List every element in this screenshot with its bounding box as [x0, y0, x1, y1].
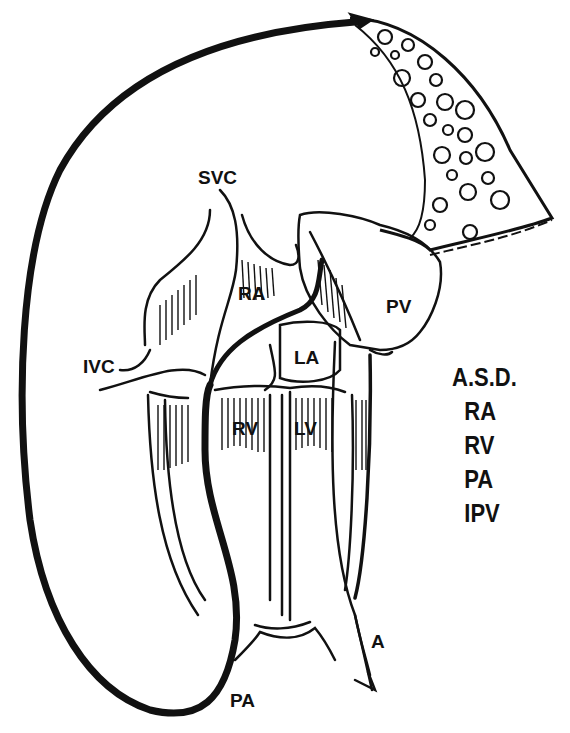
label-rv: RV: [232, 418, 258, 439]
legend-item-pa: PA: [452, 462, 549, 496]
label-lv: LV: [294, 418, 317, 439]
legend-item-ra: RA: [452, 394, 549, 428]
heart-outline: [100, 190, 441, 690]
lung-region: [350, 14, 552, 255]
label-pa: PA: [230, 690, 255, 711]
label-ivc: IVC: [83, 356, 115, 377]
legend-item-ipv: IPV: [452, 496, 549, 530]
label-a: A: [371, 631, 385, 652]
label-svc: SVC: [198, 167, 237, 188]
label-pv: PV: [386, 296, 412, 317]
legend-item-rv: RV: [452, 428, 549, 462]
legend: A.S.D. RA RV PA IPV: [452, 360, 549, 530]
label-la: LA: [294, 347, 320, 368]
label-ra: RA: [238, 283, 266, 304]
legend-title: A.S.D.: [452, 360, 549, 394]
